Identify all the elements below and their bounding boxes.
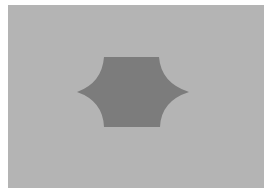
shape-canvas bbox=[8, 5, 264, 188]
image-panel bbox=[8, 5, 264, 188]
